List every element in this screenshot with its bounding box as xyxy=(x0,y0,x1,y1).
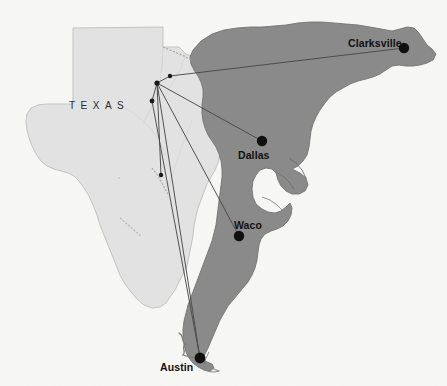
state-label-texas: TEXAS xyxy=(69,100,129,111)
hub-node-west xyxy=(150,99,155,104)
hub-node-north xyxy=(168,74,172,78)
city-dot-dallas xyxy=(257,136,267,146)
map-graphic xyxy=(0,0,447,386)
city-label-clarksville: Clarksville xyxy=(348,37,402,49)
hub-node-south xyxy=(159,173,163,177)
city-dot-austin xyxy=(195,353,206,364)
hub-node-main xyxy=(154,80,159,85)
scanned-page: p the oil and pr xyxy=(0,0,447,386)
city-label-dallas: Dallas xyxy=(238,149,270,161)
city-dot-waco xyxy=(234,231,244,241)
city-label-austin: Austin xyxy=(160,361,193,373)
city-label-waco: Waco xyxy=(234,219,262,231)
